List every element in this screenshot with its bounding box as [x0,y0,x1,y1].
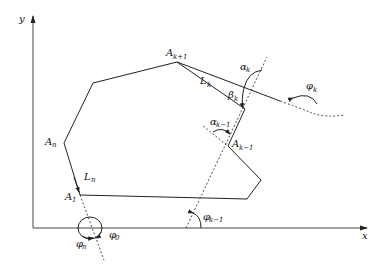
svg-text:β: β [227,89,234,100]
svg-text:φ: φ [306,80,313,91]
alpha-k-minus-1-arc [213,129,230,134]
svg-text:A: A [44,136,52,147]
x-axis-label: x [362,230,368,241]
label-phi-k-minus-1: φ k−1 [203,211,224,224]
svg-text:k−1: k−1 [239,144,254,152]
svg-text:k: k [234,95,238,103]
edge-Ln-direction-arrow [74,177,79,192]
svg-text:k−1: k−1 [209,216,224,224]
phi-k-minus-1-arc [193,213,201,228]
label-L-n: L n [83,171,96,184]
edge-Lk-extension [280,101,345,116]
svg-text:n: n [82,243,87,251]
svg-text:k+1: k+1 [173,53,188,61]
label-phi-n: φ n [76,238,87,251]
label-A-1: A 1 [64,191,76,204]
svg-text:A: A [165,47,173,58]
label-phi-0: φ 0 [109,229,120,242]
extension-line-k [186,57,267,228]
svg-text:A: A [231,138,239,149]
svg-text:0: 0 [115,234,120,242]
svg-text:L: L [83,171,91,182]
svg-text:k: k [246,66,250,74]
svg-text:n: n [52,141,57,149]
extension-line-k-minus-1 [203,126,228,146]
label-A-k-plus-1: A k+1 [165,47,188,61]
svg-text:1: 1 [72,196,76,204]
label-L-k: L k [199,75,211,89]
phi-k-arc [293,96,317,104]
y-axis-label: y [18,13,25,24]
label-alpha-k-minus-1: α k−1 [210,116,231,129]
svg-text:A: A [64,191,72,202]
label-A-k-minus-1: A k−1 [231,138,254,152]
svg-text:k: k [313,86,317,94]
phi-0-arrow [96,232,101,238]
svg-text:k: k [207,81,211,89]
svg-text:L: L [199,75,207,86]
label-phi-k: φ k [306,80,317,94]
polygon-diagram: y x A k+1 L k α k β k φ k [0,0,388,275]
svg-text:n: n [91,176,96,184]
label-alpha-k: α k [240,61,250,74]
svg-text:k−1: k−1 [216,121,231,129]
label-A-n: A n [44,136,57,149]
